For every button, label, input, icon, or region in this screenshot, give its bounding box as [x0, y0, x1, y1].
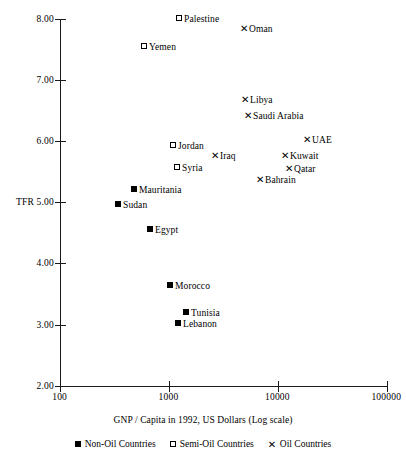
y-axis-line: [60, 19, 61, 387]
data-point-label: Sudan: [123, 200, 147, 210]
data-point[interactable]: Sudan: [115, 199, 147, 210]
open-square-marker-icon: [174, 164, 180, 170]
cross-marker-icon: ✕: [281, 151, 289, 160]
x-tick-mark: [278, 381, 279, 392]
y-tick-label: 8.00: [37, 14, 54, 24]
x-tick-label: 100: [52, 392, 67, 403]
data-point-label: Palestine: [184, 14, 219, 24]
data-point[interactable]: ✕Qatar: [285, 163, 316, 174]
data-point[interactable]: ✕Saudi Arabia: [244, 110, 304, 121]
cross-marker-icon: ✕: [241, 95, 249, 104]
legend-item[interactable]: Non-Oil Countries: [75, 438, 156, 450]
filled-square-marker-icon: [115, 201, 121, 207]
data-point-label: Morocco: [175, 281, 210, 291]
filled-square-marker-icon: [175, 320, 181, 326]
x-tick-mark: [60, 381, 61, 392]
data-point[interactable]: Syria: [174, 162, 203, 173]
data-point-label: Saudi Arabia: [253, 111, 304, 121]
cross-marker-icon: ✕: [256, 175, 264, 184]
filled-square-marker-icon: [183, 309, 189, 315]
cross-marker-icon: ✕: [285, 164, 293, 173]
data-point[interactable]: Mauritania: [131, 184, 182, 195]
data-point[interactable]: ✕Bahrain: [256, 174, 296, 185]
cross-marker-icon: ✕: [244, 111, 252, 120]
data-point[interactable]: ✕Iraq: [211, 150, 236, 161]
open-square-marker-icon: [170, 142, 176, 148]
open-square-marker-icon: [141, 43, 147, 49]
data-point-label: Jordan: [178, 141, 204, 151]
open-square-marker-icon: [176, 15, 182, 21]
open-square-marker-icon: [170, 441, 176, 447]
x-tick-mark: [387, 381, 388, 392]
legend-item[interactable]: ✕Oil Countries: [268, 438, 331, 450]
data-point-label: Egypt: [155, 225, 178, 235]
data-point[interactable]: Lebanon: [175, 318, 217, 329]
filled-square-marker-icon: [75, 441, 81, 447]
x-axis-title: GNP / Capita in 1992, US Dollars (Log sc…: [0, 415, 406, 425]
data-point-label: Kuwait: [290, 151, 319, 161]
y-tick-mark: [55, 19, 66, 20]
y-tick-label: 6.00: [37, 136, 54, 146]
data-point-label: Tunisia: [191, 308, 220, 318]
y-tick-label: 7.00: [37, 75, 54, 85]
legend-item[interactable]: Semi-Oil Countries: [170, 438, 254, 450]
data-point[interactable]: Jordan: [170, 140, 204, 151]
data-point-label: Libya: [250, 95, 273, 105]
y-tick-mark: [55, 325, 66, 326]
data-point-label: Mauritania: [139, 185, 182, 195]
data-point[interactable]: Palestine: [176, 13, 219, 24]
legend-item-label: Oil Countries: [280, 439, 331, 449]
x-tick-label: 1000: [159, 392, 179, 403]
data-point[interactable]: ✕UAE: [303, 134, 332, 145]
chart-legend: Non-Oil CountriesSemi-Oil Countries✕Oil …: [0, 438, 406, 450]
filled-square-marker-icon: [147, 226, 153, 232]
cross-marker-icon: ✕: [303, 135, 311, 144]
y-tick-mark: [55, 141, 66, 142]
data-point-label: Bahrain: [265, 175, 296, 185]
cross-marker-icon: ✕: [211, 151, 219, 160]
data-point[interactable]: Morocco: [167, 280, 210, 291]
y-tick-label: 3.00: [37, 320, 54, 330]
y-tick-label: 2.00: [37, 381, 54, 391]
data-point[interactable]: Yemen: [141, 41, 176, 52]
y-tick-mark: [55, 263, 66, 264]
data-point[interactable]: Tunisia: [183, 307, 220, 318]
cross-marker-icon: ✕: [268, 440, 276, 449]
y-tick-label: TFR 5.00: [16, 197, 54, 207]
data-point[interactable]: ✕Oman: [240, 23, 273, 34]
data-point[interactable]: ✕Libya: [241, 94, 273, 105]
x-tick-mark: [169, 381, 170, 392]
data-point[interactable]: Egypt: [147, 224, 178, 235]
data-point-label: Lebanon: [183, 319, 217, 329]
scatter-chart: 8.007.006.00TFR 5.004.003.002.00 1001000…: [0, 0, 406, 457]
data-point-label: Iraq: [220, 151, 236, 161]
x-tick-label: 100000: [371, 392, 401, 403]
data-point[interactable]: ✕Kuwait: [281, 150, 319, 161]
cross-marker-icon: ✕: [240, 24, 248, 33]
y-tick-label: 4.00: [37, 258, 54, 268]
x-axis-line: [60, 386, 387, 387]
data-point-label: Qatar: [294, 164, 316, 174]
data-point-label: Syria: [182, 163, 203, 173]
data-point-label: UAE: [312, 135, 332, 145]
legend-item-label: Non-Oil Countries: [85, 439, 156, 449]
filled-square-marker-icon: [167, 282, 173, 288]
y-tick-mark: [55, 80, 66, 81]
legend-item-label: Semi-Oil Countries: [180, 439, 254, 449]
x-tick-label: 10000: [265, 392, 290, 403]
data-point-label: Yemen: [149, 42, 176, 52]
data-point-label: Oman: [249, 24, 273, 34]
y-tick-mark: [55, 202, 66, 203]
filled-square-marker-icon: [131, 186, 137, 192]
